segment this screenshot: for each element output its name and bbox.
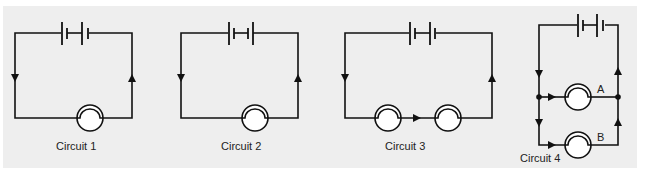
current-arrow-down-icon	[535, 119, 543, 127]
bulb-a-icon	[565, 84, 591, 110]
current-arrow-up-icon	[488, 74, 496, 82]
circuit-1: Circuit 1	[11, 22, 136, 152]
bulb-icon	[375, 105, 401, 131]
current-arrow-right-icon	[548, 93, 556, 101]
current-arrow-up-icon	[128, 74, 136, 82]
bulb-icon	[77, 105, 103, 131]
circuit-4-label: Circuit 4	[520, 152, 560, 164]
circuit-1-label: Circuit 1	[56, 140, 96, 152]
current-arrow-up-icon	[614, 118, 622, 126]
bulb-b-label: B	[597, 131, 604, 143]
junction-node-icon	[536, 94, 542, 100]
bulb-icon	[435, 105, 461, 131]
circuit-2-wire-left	[181, 33, 242, 118]
battery-icon	[410, 22, 435, 45]
circuit-4-wire-right	[591, 25, 618, 145]
circuit-2: Circuit 2	[177, 22, 302, 152]
circuit-4: A B Circuit 4	[520, 14, 622, 164]
circuit-2-label: Circuit 2	[221, 140, 261, 152]
current-arrow-down-icon	[341, 74, 349, 82]
circuit-1-wire-left	[15, 33, 77, 118]
circuit-1-wire-right	[89, 33, 132, 118]
current-arrow-up-icon	[614, 67, 622, 75]
bulb-icon	[242, 105, 268, 131]
battery-icon	[62, 22, 88, 45]
current-arrow-down-icon	[535, 70, 543, 78]
bulb-a-label: A	[597, 83, 605, 95]
current-arrow-down-icon	[177, 74, 185, 82]
current-arrow-right-icon	[548, 141, 556, 149]
current-arrow-right-icon	[413, 114, 421, 122]
circuits-figure: Circuit 1 Circuit 2	[0, 0, 648, 174]
bulb-b-icon	[565, 132, 591, 158]
current-arrow-down-icon	[11, 74, 19, 82]
current-arrow-up-icon	[294, 74, 302, 82]
junction-node-icon	[615, 94, 621, 100]
circuit-3: Circuit 3	[341, 22, 496, 152]
battery-icon	[578, 14, 603, 37]
circuit-3-label: Circuit 3	[385, 140, 425, 152]
battery-icon	[229, 22, 253, 45]
circuit-3-wire-left	[345, 33, 409, 118]
